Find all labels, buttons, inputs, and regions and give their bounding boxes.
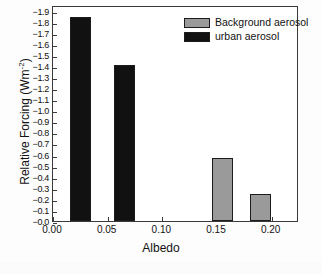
x-axis-tick-label: 0.05 bbox=[97, 224, 116, 236]
y-axis-tick-label: −1.3 bbox=[32, 74, 49, 83]
page-edge-artifact bbox=[0, 262, 322, 274]
y-axis-tick-label: −0.5 bbox=[32, 162, 49, 171]
y-axis-tick bbox=[53, 13, 57, 14]
y-axis-tick bbox=[53, 90, 57, 91]
bar bbox=[250, 194, 271, 221]
y-axis-title-main: Relative Forcing (Wm bbox=[18, 69, 32, 184]
bar bbox=[114, 65, 135, 221]
x-axis-tick bbox=[53, 217, 54, 221]
bar bbox=[70, 17, 91, 221]
plot-area: Background aerosol urban aerosol bbox=[52, 6, 298, 222]
y-axis-tick bbox=[53, 79, 57, 80]
y-axis-tick bbox=[53, 46, 57, 47]
y-axis-tick bbox=[53, 134, 57, 135]
y-axis-tick bbox=[53, 212, 57, 213]
x-axis-tick-label: 0.10 bbox=[152, 224, 171, 236]
y-axis-tick-label: −0.8 bbox=[32, 129, 49, 138]
y-axis-tick bbox=[53, 35, 57, 36]
y-axis-tick-label: −1.5 bbox=[32, 51, 49, 60]
y-axis-tick bbox=[53, 190, 57, 191]
y-axis-tick bbox=[53, 179, 57, 180]
y-axis-tick-label: −0.4 bbox=[32, 173, 49, 182]
y-axis-tick-label: −1.9 bbox=[32, 7, 49, 16]
x-axis-title: Albedo bbox=[0, 241, 322, 255]
x-axis-tick-label: 0.00 bbox=[42, 224, 61, 236]
x-axis-tick-label: 0.20 bbox=[261, 224, 280, 236]
y-axis-tick bbox=[53, 24, 57, 25]
legend-item-urban-aerosol: urban aerosol bbox=[184, 30, 322, 43]
y-axis-tick bbox=[53, 68, 57, 69]
y-axis-tick-label: −0.2 bbox=[32, 195, 49, 204]
y-axis-tick bbox=[53, 201, 57, 202]
figure-canvas: −0.0−0.1−0.2−0.3−0.4−0.5−0.6−0.7−0.8−0.9… bbox=[0, 0, 322, 274]
y-axis-tick-label: −1.6 bbox=[32, 40, 49, 49]
y-axis-tick bbox=[53, 101, 57, 102]
x-axis-tick-label: 0.15 bbox=[206, 224, 225, 236]
y-axis-tick-label: −0.7 bbox=[32, 140, 49, 149]
y-axis-tick-label: −0.9 bbox=[32, 118, 49, 127]
x-axis-tick bbox=[272, 217, 273, 221]
x-axis-tick-labels: 0.000.050.100.150.20 bbox=[0, 224, 322, 240]
y-axis-tick-label: −0.1 bbox=[32, 206, 49, 215]
y-axis-tick bbox=[53, 157, 57, 158]
y-axis-title-tail: ) bbox=[18, 58, 32, 62]
bar bbox=[212, 158, 233, 221]
y-axis-tick-label: −1.4 bbox=[32, 62, 49, 71]
legend: Background aerosol urban aerosol bbox=[184, 16, 322, 44]
y-axis-tick-label: −1.0 bbox=[32, 107, 49, 116]
y-axis-title-exponent: -2 bbox=[17, 62, 26, 69]
x-axis-tick bbox=[108, 217, 109, 221]
y-axis-tick-label: −1.8 bbox=[32, 18, 49, 27]
legend-item-background-aerosol: Background aerosol bbox=[184, 16, 322, 29]
y-axis-tick-label: −1.1 bbox=[32, 96, 49, 105]
y-axis-tick bbox=[53, 57, 57, 58]
x-axis-tick bbox=[162, 217, 163, 221]
y-axis-tick bbox=[53, 145, 57, 146]
legend-swatch-urban-aerosol bbox=[184, 32, 210, 42]
y-axis-tick-label: −0.6 bbox=[32, 151, 49, 160]
y-axis-tick-label: −0.3 bbox=[32, 184, 49, 193]
y-axis-title: Relative Forcing (Wm-2) bbox=[17, 22, 32, 222]
y-axis-tick-label: −1.7 bbox=[32, 29, 49, 38]
legend-swatch-background-aerosol bbox=[184, 18, 210, 28]
y-axis-tick bbox=[53, 112, 57, 113]
legend-label-background-aerosol: Background aerosol bbox=[215, 17, 308, 28]
legend-label-urban-aerosol: urban aerosol bbox=[215, 31, 279, 42]
y-axis-tick bbox=[53, 123, 57, 124]
y-axis-tick-label: −1.2 bbox=[32, 85, 49, 94]
y-axis-tick bbox=[53, 168, 57, 169]
